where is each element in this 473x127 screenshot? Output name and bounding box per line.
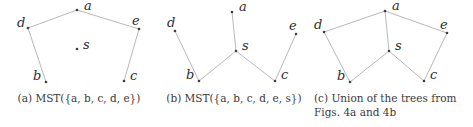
graph-edge-a-s [232, 12, 236, 51]
graph-edge-a-e [385, 11, 447, 33]
graph-node-s [76, 48, 79, 51]
graph-node-a [76, 9, 79, 12]
graph-node-label-c: c [130, 68, 138, 83]
graph-node-label-e: e [440, 17, 448, 32]
figure-panel-a: adesbc (a) MST({a, b, c, d, e}) [0, 0, 158, 127]
graph-node-b [198, 80, 201, 83]
graph-b: adesbc [158, 0, 310, 92]
graph-node-d [27, 27, 30, 30]
graph-edge-d-a [324, 11, 385, 32]
graph-node-c [123, 80, 126, 83]
graph-edge-s-c [236, 51, 275, 81]
graph-node-label-d: d [167, 15, 175, 30]
graph-edge-a-s [385, 11, 389, 51]
graph-node-c [423, 80, 426, 83]
graph-node-b [45, 81, 48, 84]
graph-node-label-b: b [33, 68, 41, 83]
caption-c: (c) Union of the trees fromFigs. 4a and … [310, 92, 473, 119]
caption-a: (a) MST({a, b, c, d, e}) [0, 92, 158, 106]
caption-line: (c) Union of the trees from [314, 92, 473, 106]
figure-row: adesbc (a) MST({a, b, c, d, e}) adesbc (… [0, 0, 473, 127]
figure-panel-c: adesbc (c) Union of the trees fromFigs. … [310, 0, 473, 127]
graph-c: adesbc [310, 0, 473, 92]
graph-a: adesbc [0, 0, 158, 92]
graph-node-label-e: e [289, 18, 297, 33]
figure-panel-b: adesbc (b) MST({a, b, c, d, e, s}) [158, 0, 310, 127]
graph-node-label-s: s [242, 38, 249, 53]
graph-node-label-d: d [314, 17, 322, 32]
caption-line: (a) MST({a, b, c, d, e}) [0, 92, 158, 106]
graph-node-s [388, 50, 391, 53]
graph-node-d [323, 31, 326, 34]
graph-node-b [349, 81, 352, 84]
graph-node-a [231, 11, 234, 14]
caption-line: (b) MST({a, b, c, d, e, s}) [158, 92, 310, 106]
graph-node-label-b: b [186, 67, 194, 82]
graph-node-label-b: b [337, 68, 345, 83]
graph-node-label-s: s [395, 38, 402, 53]
graph-node-c [274, 80, 277, 83]
graph-node-e [138, 28, 141, 31]
graph-node-label-c: c [430, 67, 438, 82]
graph-edge-d-a [28, 10, 77, 28]
graph-edge-s-c [389, 51, 424, 81]
graph-node-label-e: e [132, 13, 140, 28]
graph-node-label-a: a [84, 0, 92, 13]
caption-line: Figs. 4a and 4b [314, 106, 473, 120]
graph-node-label-d: d [17, 15, 25, 30]
graph-node-label-s: s [83, 37, 90, 52]
caption-b: (b) MST({a, b, c, d, e, s}) [158, 92, 310, 106]
graph-node-d [174, 30, 177, 33]
graph-edge-b-s [350, 51, 389, 82]
graph-edge-b-s [199, 51, 236, 81]
graph-node-s [235, 50, 238, 53]
graph-node-a [384, 10, 387, 13]
graph-node-label-c: c [281, 67, 289, 82]
graph-node-label-a: a [239, 0, 247, 14]
graph-node-e [295, 33, 298, 36]
graph-node-e [446, 32, 449, 35]
graph-node-label-a: a [392, 0, 400, 13]
